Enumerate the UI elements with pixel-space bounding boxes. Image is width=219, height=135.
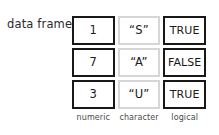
cell-value: “U” bbox=[129, 88, 150, 100]
cell-character-row1: “S” bbox=[118, 16, 161, 45]
column-type-labels: numeric character logical bbox=[72, 113, 206, 122]
cell-character-row2: “A” bbox=[118, 48, 161, 77]
cell-value: 7 bbox=[90, 56, 98, 68]
cell-character-row3: “U” bbox=[118, 80, 161, 109]
table-row: 7 “A” FALSE bbox=[72, 48, 206, 77]
diagram-caption: data frame bbox=[7, 17, 72, 31]
cell-value: “S” bbox=[129, 24, 149, 36]
cell-value: 3 bbox=[90, 88, 98, 100]
column-label-character: character bbox=[118, 113, 161, 122]
cell-value: TRUE bbox=[170, 25, 200, 36]
cell-logical-row2: FALSE bbox=[163, 48, 206, 77]
cell-numeric-row1: 1 bbox=[72, 16, 115, 45]
cell-logical-row3: TRUE bbox=[163, 80, 206, 109]
table-row: 3 “U” TRUE bbox=[72, 80, 206, 109]
cell-value: “A” bbox=[130, 56, 147, 68]
cell-value: TRUE bbox=[170, 89, 200, 100]
table-row: 1 “S” TRUE bbox=[72, 16, 206, 45]
cell-numeric-row2: 7 bbox=[72, 48, 115, 77]
data-frame-diagram: data frame 1 “S” TRUE 7 “A” FALSE bbox=[0, 0, 219, 135]
column-label-logical: logical bbox=[163, 113, 206, 122]
cell-logical-row1: TRUE bbox=[163, 16, 206, 45]
cell-value: FALSE bbox=[168, 57, 201, 68]
data-frame-grid: 1 “S” TRUE 7 “A” FALSE 3 bbox=[72, 16, 206, 109]
cell-numeric-row3: 3 bbox=[72, 80, 115, 109]
column-label-numeric: numeric bbox=[72, 113, 115, 122]
cell-value: 1 bbox=[90, 24, 98, 36]
